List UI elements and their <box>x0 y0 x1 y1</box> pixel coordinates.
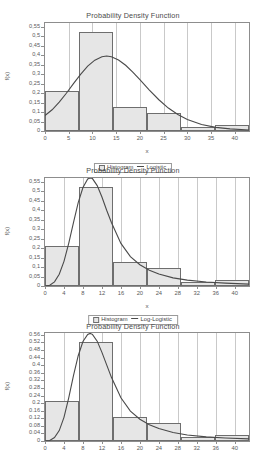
x-axis-tick-mark <box>235 441 236 444</box>
y-axis-tick-label: 0,5 <box>0 188 40 194</box>
y-axis-tick-mark <box>41 36 44 37</box>
y-axis-tick-label: 0.4 <box>0 362 40 368</box>
y-axis-tick-label: 0,55 <box>0 179 40 185</box>
y-axis-tick-mark <box>41 441 44 442</box>
y-axis-tick-mark <box>41 191 44 192</box>
x-axis-tick-mark <box>83 286 84 289</box>
y-axis-tick-label: 0,3 <box>0 71 40 77</box>
x-axis-tick-mark <box>235 131 236 134</box>
y-axis-tick-label: 0 <box>0 438 40 444</box>
y-axis-tick-mark <box>41 267 44 268</box>
y-axis-tick-mark <box>41 277 44 278</box>
x-axis-tick-label: 32 <box>194 446 200 452</box>
y-axis-tick-mark <box>41 426 44 427</box>
x-axis-tick-mark <box>92 131 93 134</box>
y-axis-tick-label: 0.44 <box>0 355 40 361</box>
x-axis-tick-label: 20 <box>137 136 143 142</box>
x-axis-tick-mark <box>235 286 236 289</box>
y-axis-tick-mark <box>41 84 44 85</box>
chart-title: Probability Density Function <box>0 11 266 20</box>
x-axis-tick-mark <box>178 441 179 444</box>
chart-title: Probability Density Function <box>0 322 266 331</box>
y-axis-tick-label: 0,1 <box>0 109 40 115</box>
y-axis-tick-label: 0,4 <box>0 52 40 58</box>
x-axis-tick-label: 30 <box>184 136 190 142</box>
y-axis-tick-label: 0.04 <box>0 431 40 437</box>
y-axis-tick-label: 0,25 <box>0 236 40 242</box>
y-axis-tick-mark <box>41 93 44 94</box>
x-axis-tick-mark <box>102 441 103 444</box>
y-axis-tick-mark <box>41 131 44 132</box>
x-axis-tick-mark <box>64 286 65 289</box>
plot-area <box>44 177 250 287</box>
plot-area <box>44 22 250 132</box>
chart-panel-third: Probability Density Function f(x) 00.040… <box>0 320 266 471</box>
y-axis-tick-label: 0,55 <box>0 24 40 30</box>
y-axis-tick-label: 0,05 <box>0 274 40 280</box>
y-axis-tick-label: 0,2 <box>0 90 40 96</box>
x-axis-tick-mark <box>216 441 217 444</box>
y-axis-tick-mark <box>41 103 44 104</box>
x-axis-tick-mark <box>102 286 103 289</box>
x-axis-tick-mark <box>197 441 198 444</box>
chart-panel-log-logistic: Probability Density Function f(x) x Hist… <box>0 155 266 320</box>
x-axis-tick-mark <box>83 441 84 444</box>
x-axis-tick-mark <box>45 441 46 444</box>
density-curve <box>45 178 249 286</box>
density-curve <box>45 23 249 131</box>
x-axis-label: x <box>44 147 250 154</box>
y-axis-tick-mark <box>41 396 44 397</box>
x-axis-tick-label: 16 <box>118 291 124 297</box>
x-axis-tick-label: 4 <box>62 291 65 297</box>
y-axis-tick-mark <box>41 182 44 183</box>
y-axis-tick-mark <box>41 350 44 351</box>
x-axis-tick-label: 36 <box>213 291 219 297</box>
x-axis-tick-mark <box>116 131 117 134</box>
y-axis-tick-mark <box>41 55 44 56</box>
y-axis-tick-label: 0,15 <box>0 100 40 106</box>
x-axis-tick-label: 20 <box>137 291 143 297</box>
x-axis-tick-mark <box>45 286 46 289</box>
x-axis-tick-mark <box>159 441 160 444</box>
x-axis-tick-label: 0 <box>43 446 46 452</box>
y-axis-tick-mark <box>41 46 44 47</box>
x-axis-tick-label: 4 <box>62 446 65 452</box>
y-axis-tick-label: 0.28 <box>0 385 40 391</box>
y-axis-tick-mark <box>41 403 44 404</box>
y-axis-tick-mark <box>41 365 44 366</box>
y-axis-tick-mark <box>41 65 44 66</box>
x-axis-tick-label: 25 <box>160 136 166 142</box>
y-axis-tick-mark <box>41 122 44 123</box>
y-axis-tick-mark <box>41 388 44 389</box>
y-axis-tick-mark <box>41 201 44 202</box>
y-axis-tick-mark <box>41 112 44 113</box>
x-axis-tick-label: 20 <box>137 446 143 452</box>
y-axis-tick-label: 0.48 <box>0 347 40 353</box>
x-axis-tick-label: 35 <box>208 136 214 142</box>
y-axis-tick-label: 0.08 <box>0 423 40 429</box>
y-axis-tick-label: 0,5 <box>0 33 40 39</box>
x-axis-tick-label: 28 <box>175 291 181 297</box>
x-axis-tick-label: 28 <box>175 446 181 452</box>
y-axis-tick-label: 0 <box>0 283 40 289</box>
x-axis-tick-label: 5 <box>67 136 70 142</box>
x-axis-tick-mark <box>216 286 217 289</box>
x-axis-tick-label: 24 <box>156 291 162 297</box>
chart-panel-logistic: Probability Density Function f(x) x Hist… <box>0 0 266 155</box>
y-axis-tick-mark <box>41 342 44 343</box>
y-axis-tick-mark <box>41 27 44 28</box>
y-axis-tick-mark <box>41 248 44 249</box>
x-axis-tick-label: 40 <box>232 291 238 297</box>
y-axis-tick-label: 0,45 <box>0 43 40 49</box>
y-axis-tick-mark <box>41 433 44 434</box>
x-axis-tick-label: 32 <box>194 291 200 297</box>
x-axis-tick-mark <box>69 131 70 134</box>
y-axis-tick-label: 0,4 <box>0 207 40 213</box>
y-axis-tick-label: 0.56 <box>0 332 40 338</box>
y-axis-tick-label: 0,45 <box>0 198 40 204</box>
x-axis-tick-label: 15 <box>113 136 119 142</box>
x-axis-tick-label: 40 <box>232 446 238 452</box>
x-axis-tick-label: 8 <box>81 291 84 297</box>
y-axis-tick-mark <box>41 335 44 336</box>
x-axis-tick-mark <box>121 441 122 444</box>
